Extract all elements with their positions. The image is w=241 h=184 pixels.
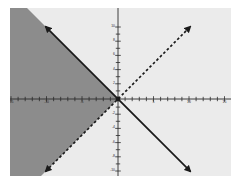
y-tick-label-6: 6 — [106, 54, 115, 57]
y-tick-label-neg8: -8 — [106, 155, 115, 158]
graph-screenshot: -15 -10 -5 5 10 15 10 8 6 4 2 -2 -4 -6 -… — [0, 0, 241, 184]
shaded-solution-region — [10, 8, 118, 176]
y-tick-label-neg2: -2 — [106, 112, 115, 115]
y-tick-label-8: 8 — [106, 39, 115, 42]
y-tick-label-4: 4 — [106, 68, 115, 71]
x-tick-label-5: 5 — [153, 101, 155, 104]
y-tick-label-10: 10 — [106, 25, 115, 28]
y-tick-label-neg6: -6 — [106, 141, 115, 144]
x-tick-label-10: 10 — [187, 101, 191, 104]
origin-point — [116, 97, 121, 102]
x-tick-label-neg5: -5 — [80, 101, 83, 104]
x-tick-label-15: 15 — [223, 101, 227, 104]
x-tick-label-neg10: -10 — [44, 101, 49, 104]
plot-area: -15 -10 -5 5 10 15 10 8 6 4 2 -2 -4 -6 -… — [10, 8, 231, 176]
y-tick-label-neg4: -4 — [106, 127, 115, 130]
y-tick-label-neg10: -10 — [104, 169, 115, 172]
y-tick-label-2: 2 — [106, 82, 115, 85]
coordinate-plane-svg — [10, 8, 231, 176]
x-tick-label-neg15: -15 — [10, 101, 13, 104]
